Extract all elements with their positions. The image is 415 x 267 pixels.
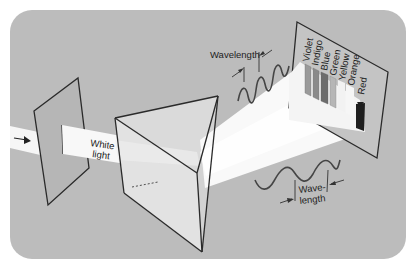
prism-diagram: Violet Indigo Blue Green Yellow Orange R… bbox=[0, 0, 415, 267]
bar-indigo bbox=[313, 68, 319, 100]
bar-violet bbox=[305, 64, 311, 96]
bar-red bbox=[356, 103, 365, 131]
bar-orange bbox=[346, 84, 354, 117]
bar-blue bbox=[321, 72, 328, 104]
wavelength-top-label: Wavelength bbox=[210, 49, 260, 60]
bar-green bbox=[330, 76, 336, 108]
bar-yellow bbox=[338, 80, 345, 112]
